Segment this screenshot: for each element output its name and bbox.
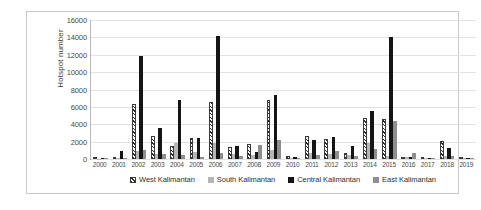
bar (354, 156, 358, 159)
legend-item[interactable]: East Kalimantan (373, 175, 436, 184)
y-axis-tick-label: 14000 (67, 33, 87, 42)
bar-group (207, 20, 226, 159)
x-axis-tick-label: 2003 (148, 161, 167, 168)
bar (143, 150, 147, 159)
bar-group (418, 20, 437, 159)
bar (200, 157, 204, 159)
x-axis-tick-label: 2018 (437, 161, 456, 168)
x-axis-tick-label: 2012 (322, 161, 341, 168)
bar (412, 153, 416, 159)
y-axis-tick-label: 6000 (71, 102, 87, 111)
legend-label: West Kalimantan (139, 175, 195, 184)
chart-figure: Hotspot number 1600014000120001000080006… (0, 0, 481, 210)
bar-group (322, 20, 341, 159)
bar-group (341, 20, 360, 159)
x-axis-tick-label: 2011 (302, 161, 321, 168)
bars-layer (91, 20, 476, 159)
legend-item[interactable]: Central Kalimantan (288, 175, 360, 184)
x-axis-tick-label: 2008 (244, 161, 263, 168)
bar (181, 155, 185, 159)
bar-group (245, 20, 264, 159)
y-axis-tick-label: 8000 (71, 85, 87, 94)
bar (162, 154, 166, 159)
x-axis-tick-label: 2000 (90, 161, 109, 168)
x-axis-tick-label: 2017 (418, 161, 437, 168)
legend-label: Central Kalimantan (297, 175, 360, 184)
y-axis-tick-label: 12000 (67, 50, 87, 59)
x-axis-tick-label: 2013 (341, 161, 360, 168)
x-axis-tick-label: 2015 (379, 161, 398, 168)
bar (220, 153, 224, 159)
bar (470, 158, 474, 159)
bar-group (380, 20, 399, 159)
legend-label: South Kalimantan (217, 175, 275, 184)
legend-item[interactable]: South Kalimantan (208, 175, 275, 184)
y-axis-tick-label: 10000 (67, 68, 87, 77)
bar-group (264, 20, 283, 159)
x-axis-tick-label: 2002 (129, 161, 148, 168)
x-axis-tick-label: 2014 (360, 161, 379, 168)
bar (451, 156, 455, 159)
y-axis-tick-label: 16000 (67, 16, 87, 25)
x-axis-tick-label: 2010 (283, 161, 302, 168)
x-axis-tick-label: 2001 (109, 161, 128, 168)
bar-group (226, 20, 245, 159)
bar (139, 56, 143, 159)
bar (258, 145, 262, 159)
bar-group (303, 20, 322, 159)
bar (431, 158, 435, 159)
bar (297, 158, 301, 159)
x-axis-tick-label: 2007 (225, 161, 244, 168)
bar-group (187, 20, 206, 159)
bar-group (168, 20, 187, 159)
bar (104, 158, 108, 159)
legend-swatch-icon (373, 177, 379, 183)
chart-frame: Hotspot number 1600014000120001000080006… (26, 11, 459, 194)
plot-area: 1600014000120001000080006000400020000 (90, 20, 476, 160)
bar (393, 121, 397, 159)
bar-group (457, 20, 476, 159)
x-axis-tick-labels: 2000200120022003200420052006200720082009… (90, 161, 476, 168)
x-axis-tick-label: 2005 (186, 161, 205, 168)
x-axis-tick-label: 2006 (206, 161, 225, 168)
bar (316, 155, 320, 159)
legend-label: East Kalimantan (382, 175, 436, 184)
bar (123, 158, 127, 159)
bar-group (361, 20, 380, 159)
bar (216, 36, 220, 159)
bar (335, 151, 339, 159)
gridline (91, 159, 476, 160)
legend-swatch-icon (130, 177, 136, 183)
legend-item[interactable]: West Kalimantan (130, 175, 195, 184)
bar (374, 149, 378, 159)
bar-group (130, 20, 149, 159)
bar-group (284, 20, 303, 159)
y-axis-tick-label: 0 (83, 155, 87, 164)
legend-swatch-icon (208, 177, 214, 183)
bar-group (399, 20, 418, 159)
legend-swatch-icon (288, 177, 294, 183)
bar (277, 140, 281, 159)
y-axis-title: Hotspot number (56, 4, 65, 114)
bar-group (149, 20, 168, 159)
bar (178, 100, 182, 159)
x-axis-tick-label: 2009 (264, 161, 283, 168)
bar-group (110, 20, 129, 159)
bar (382, 119, 386, 159)
x-axis-tick-label: 2004 (167, 161, 186, 168)
bar-group (91, 20, 110, 159)
x-axis-tick-label: 2016 (399, 161, 418, 168)
y-axis-tick-label: 4000 (71, 120, 87, 129)
chart-legend: West KalimantanSouth KalimantanCentral K… (90, 175, 476, 184)
bar-group (438, 20, 457, 159)
x-axis-tick-label: 2019 (457, 161, 476, 168)
y-axis-tick-label: 2000 (71, 137, 87, 146)
bar (239, 156, 243, 159)
